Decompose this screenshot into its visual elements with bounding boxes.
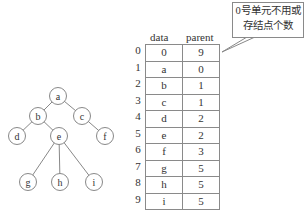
cell-parent: 5 (183, 160, 220, 177)
svg-text:b: b (36, 111, 41, 122)
tree-node-e: e (51, 128, 68, 145)
row-index: 3 (133, 94, 143, 106)
tree-node-c: c (74, 108, 91, 125)
cell-data: e (146, 127, 183, 144)
svg-text:g: g (26, 177, 31, 188)
table-row: 09 (146, 45, 220, 62)
cell-parent: 5 (183, 193, 220, 210)
svg-text:a: a (56, 91, 61, 102)
table-row: a0 (146, 61, 220, 78)
cell-parent: 5 (183, 177, 220, 194)
tree-node-d: d (9, 128, 26, 145)
cell-data: d (146, 111, 183, 128)
tree-node-b: b (30, 108, 47, 125)
svg-text:e: e (57, 131, 62, 142)
table-row: e2 (146, 127, 220, 144)
row-index: 2 (133, 77, 143, 89)
table-row: h5 (146, 177, 220, 194)
callout-box: 0号单元不用或 存结点个数 (232, 2, 304, 38)
tree-node-h: h (52, 174, 69, 191)
cell-parent: 1 (183, 78, 220, 95)
cell-parent: 2 (183, 127, 220, 144)
row-index: 5 (133, 127, 143, 139)
table-row: i5 (146, 193, 220, 210)
table-row: g5 (146, 160, 220, 177)
cell-data: i (146, 193, 183, 210)
cell-parent: 3 (183, 144, 220, 161)
header-data: data (150, 31, 168, 43)
svg-text:d: d (15, 131, 20, 142)
cell-data: 0 (146, 45, 183, 62)
cell-data: a (146, 61, 183, 78)
callout-line-2: 存结点个数 (233, 18, 303, 33)
tree-node-i: i (86, 174, 103, 191)
table-row: c1 (146, 94, 220, 111)
row-index: 8 (133, 176, 143, 188)
parent-table: 09a0b1c1d2e2f3g5h5i5 (145, 44, 220, 210)
callout-line-1: 0号单元不用或 (233, 3, 303, 18)
tree-node-g: g (20, 174, 37, 191)
svg-text:i: i (93, 177, 96, 188)
row-index: 9 (133, 193, 143, 205)
callout-pointer (222, 37, 255, 52)
row-index: 1 (133, 61, 143, 73)
tree-node-a: a (50, 88, 67, 105)
cell-parent: 1 (183, 94, 220, 111)
row-index: 0 (133, 44, 143, 56)
cell-data: f (146, 144, 183, 161)
row-index: 6 (133, 143, 143, 155)
tree-node-f: f (97, 128, 114, 145)
table-row: b1 (146, 78, 220, 95)
cell-parent: 9 (183, 45, 220, 62)
cell-data: h (146, 177, 183, 194)
table-row: f3 (146, 144, 220, 161)
cell-data: g (146, 160, 183, 177)
cell-parent: 0 (183, 61, 220, 78)
table-row: d2 (146, 111, 220, 128)
header-parent: parent (186, 31, 213, 43)
cell-data: c (146, 94, 183, 111)
cell-data: b (146, 78, 183, 95)
cell-parent: 2 (183, 111, 220, 128)
row-index: 4 (133, 110, 143, 122)
row-index: 7 (133, 160, 143, 172)
svg-text:c: c (80, 111, 85, 122)
svg-text:h: h (58, 177, 63, 188)
